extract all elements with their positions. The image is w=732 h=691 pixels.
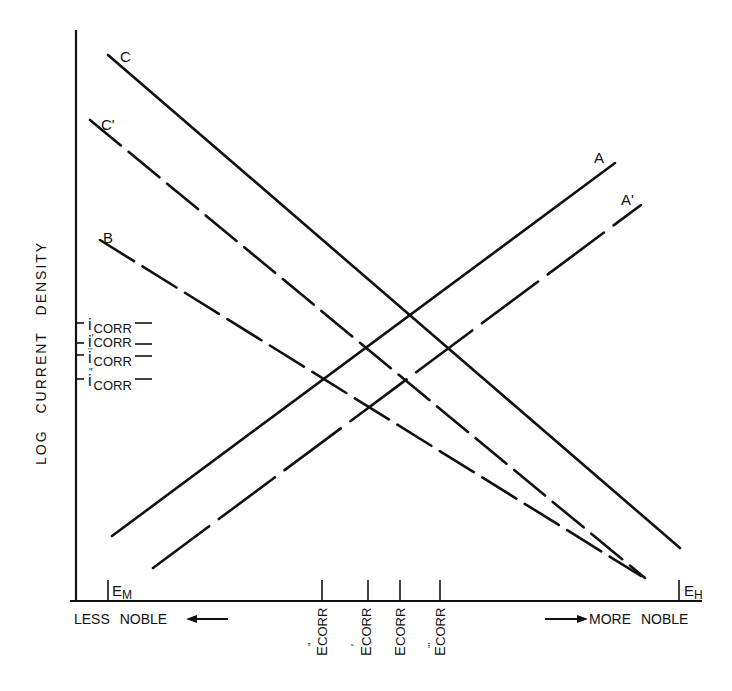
e-corr-labels: ECORR " ECORR ' ECORR ECORR ''' bbox=[307, 608, 448, 656]
more-noble-label: MORE NOBLE bbox=[589, 611, 688, 627]
e-corr-triple-prime-mark: ''' bbox=[426, 643, 436, 648]
e-corr-prime-mark: ' bbox=[350, 644, 361, 646]
i-corr-triple-prime-mark: ''' bbox=[88, 346, 93, 355]
right-arrow-icon bbox=[545, 615, 588, 623]
label-c-prime: C' bbox=[101, 116, 115, 133]
e-corr-double-prime-mark: " bbox=[307, 642, 318, 646]
label-a-prime: A' bbox=[621, 191, 634, 208]
i-corr-double-prime-label: iCORR bbox=[88, 372, 132, 393]
curves bbox=[90, 55, 680, 578]
label-b: B bbox=[103, 229, 113, 246]
e-m-label: EM bbox=[112, 582, 132, 602]
y-axis-label: LOG CURRENT DENSITY bbox=[33, 241, 49, 465]
label-c: C bbox=[120, 48, 131, 65]
e-corr-ticks bbox=[322, 580, 440, 601]
i-corr-labels: iCORR i'CORR iCORR ''' iCORR " bbox=[88, 316, 132, 393]
i-corr-double-prime-mark: " bbox=[89, 367, 93, 378]
e-corr-prime-label: ECORR bbox=[357, 608, 374, 656]
less-noble-label: LESS NOBLE bbox=[74, 611, 167, 627]
curve-c-prime bbox=[90, 120, 645, 578]
e-h-label: EH bbox=[684, 582, 703, 602]
i-corr-prime-label: i'CORR bbox=[88, 333, 132, 350]
left-arrow-icon bbox=[186, 615, 228, 623]
i-corr-label: iCORR bbox=[88, 316, 132, 336]
e-corr-double-prime-label: ECORR bbox=[313, 608, 330, 656]
label-a: A bbox=[594, 149, 604, 166]
curve-a bbox=[112, 163, 615, 536]
evans-diagram: C C' B A A' LOG CURRENT DENSITY iCORR i'… bbox=[0, 0, 732, 691]
i-corr-triple-prime-label: iCORR bbox=[88, 349, 132, 369]
e-corr-label: ECORR bbox=[391, 608, 408, 656]
curve-b bbox=[100, 240, 641, 576]
